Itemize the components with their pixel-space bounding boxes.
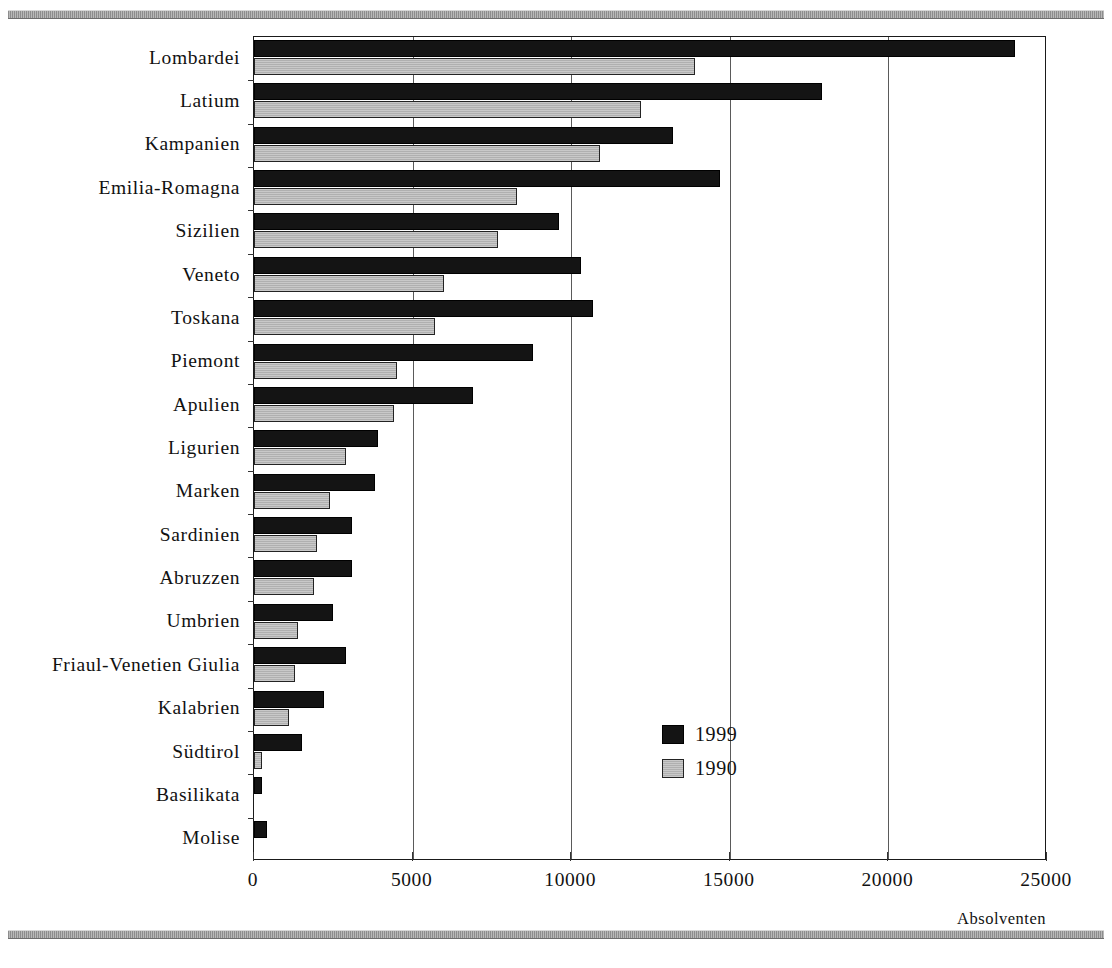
y-axis-tick [248,297,254,298]
category-label: Abruzzen [159,568,240,588]
y-axis-tick [248,557,254,558]
y-axis-tick [248,167,254,168]
gridline [888,37,889,859]
x-axis-title: Absolventen [957,909,1046,929]
category-label: Piemont [171,351,240,371]
x-axis-tick-label: 10000 [544,869,596,891]
x-axis-tick-label: 15000 [703,869,755,891]
bar-1990 [254,535,317,552]
category-label: Marken [176,481,240,501]
x-axis-tick-label: 25000 [1020,869,1072,891]
bar-1990 [254,622,298,639]
bar-1999 [254,83,822,100]
bar-1999 [254,734,302,751]
category-label: Sardinien [160,525,240,545]
x-axis-tick-label: 5000 [391,869,432,891]
x-axis-tick-label: 0 [248,869,258,891]
y-axis-tick [248,514,254,515]
x-axis-tick [412,852,413,861]
bar-1999 [254,647,346,664]
top-divider-rule [8,10,1104,19]
bar-1999 [254,604,333,621]
bar-1990 [254,145,600,162]
bar-chart-figure: LombardeiLatiumKampanienEmilia-RomagnaSi… [0,28,1112,924]
bar-1990 [254,405,394,422]
legend-swatch-1999-icon [662,725,684,744]
category-label: Emilia-Romagna [98,178,240,198]
bottom-divider-rule [8,930,1104,939]
bar-1999 [254,517,352,534]
category-label: Sizilien [176,221,240,241]
bar-1990 [254,492,330,509]
legend-item-1990[interactable]: 1990 [662,751,782,785]
chart-legend: 1999 1990 [662,717,782,785]
legend-item-1999[interactable]: 1999 [662,717,782,751]
bar-1990 [254,188,517,205]
y-axis-tick [248,601,254,602]
category-label: Umbrien [166,611,240,631]
bar-1999 [254,300,593,317]
category-label: Apulien [173,395,240,415]
y-axis-tick [248,774,254,775]
x-axis-tick [729,852,730,861]
bar-1990 [254,752,262,769]
category-label: Veneto [182,265,240,285]
bar-1990 [254,58,695,75]
y-axis-tick [248,210,254,211]
category-label: Friaul-Venetien Giulia [52,655,240,675]
bar-1990 [254,275,444,292]
y-axis-tick [248,80,254,81]
legend-label-1999: 1999 [695,724,737,744]
x-axis-tick [1046,852,1047,861]
y-axis-tick [248,254,254,255]
category-label: Latium [180,91,240,111]
y-axis-tick [248,644,254,645]
category-label: Basilikata [156,785,240,805]
bar-1999 [254,344,533,361]
category-label: Toskana [171,308,240,328]
bar-1990 [254,231,498,248]
category-label: Lombardei [149,48,240,68]
plot-area [253,36,1046,860]
bar-1999 [254,560,352,577]
bar-1999 [254,40,1015,57]
bar-1990 [254,101,641,118]
bar-1999 [254,257,581,274]
y-axis-tick [248,818,254,819]
bar-1999 [254,691,324,708]
y-axis-tick [248,731,254,732]
x-axis-tick [253,852,254,861]
bar-1999 [254,213,559,230]
bar-1999 [254,777,262,794]
x-axis-tick [570,852,571,861]
bar-1999 [254,430,378,447]
bar-1999 [254,170,720,187]
category-label: Kalabrien [158,698,240,718]
category-label: Ligurien [168,438,240,458]
y-axis-tick [248,124,254,125]
legend-swatch-1990-icon [662,759,684,778]
category-label: Molise [182,828,240,848]
bar-1999 [254,821,267,838]
y-axis-tick [248,688,254,689]
bar-1990 [254,578,314,595]
bar-1990 [254,362,397,379]
bar-1999 [254,127,673,144]
x-axis-tick-label: 20000 [862,869,914,891]
bar-1990 [254,709,289,726]
legend-label-1990: 1990 [695,758,737,778]
x-axis-tick [887,852,888,861]
bar-1999 [254,474,375,491]
bar-1990 [254,665,295,682]
y-axis-tick [248,341,254,342]
y-axis-tick [248,384,254,385]
category-label: Kampanien [145,134,240,154]
category-label: Südtirol [172,742,240,762]
bar-1990 [254,448,346,465]
bar-1999 [254,387,473,404]
bar-1990 [254,318,435,335]
y-axis-tick [248,471,254,472]
y-axis-tick [248,427,254,428]
